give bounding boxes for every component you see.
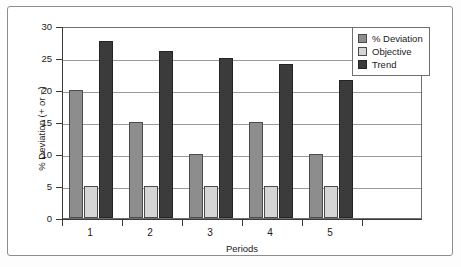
bar	[144, 186, 158, 218]
x-axis-tick	[242, 220, 243, 226]
y-axis-tick	[56, 187, 62, 188]
y-axis-tick	[56, 27, 62, 28]
legend-item: Objective	[358, 45, 423, 58]
x-axis-tick	[302, 220, 303, 226]
x-axis-tick	[182, 220, 183, 226]
x-axis-tick-label: 3	[190, 228, 230, 238]
y-axis-tick-label: 25	[30, 54, 52, 64]
bar	[249, 122, 263, 218]
bar	[219, 58, 233, 218]
bar	[279, 64, 293, 218]
legend-item: % Deviation	[358, 32, 423, 45]
legend-label: % Deviation	[372, 34, 423, 44]
legend-color-swatch	[358, 34, 367, 43]
y-axis-tick-label: 5	[30, 182, 52, 192]
y-axis-tick-label: 30	[30, 22, 52, 32]
bar	[264, 186, 278, 218]
x-axis-tick-label: 5	[310, 228, 350, 238]
x-axis-tick-label: 4	[250, 228, 290, 238]
y-axis-tick-labels: 051015202530	[26, 0, 52, 267]
chart-figure: % Deviation (+ or −) 051015202530 Period…	[0, 0, 461, 267]
legend-label: Trend	[372, 60, 396, 70]
bar	[159, 51, 173, 218]
y-axis-tick	[56, 219, 62, 220]
y-axis-line	[62, 27, 63, 220]
x-axis-tick	[122, 220, 123, 226]
y-axis-tick-label: 0	[30, 214, 52, 224]
x-axis-tick	[362, 220, 363, 226]
bar	[99, 41, 113, 218]
y-axis-tick	[56, 59, 62, 60]
legend-color-swatch	[358, 47, 367, 56]
x-axis-tick-label: 1	[70, 228, 110, 238]
bar	[129, 122, 143, 218]
y-axis-tick	[56, 155, 62, 156]
y-axis-tick-label: 20	[30, 86, 52, 96]
bar	[204, 186, 218, 218]
bar	[84, 186, 98, 218]
bar	[69, 90, 83, 218]
bar	[309, 154, 323, 218]
y-axis-tick	[56, 91, 62, 92]
y-axis-tick-label: 10	[30, 150, 52, 160]
legend-label: Objective	[372, 47, 412, 57]
x-axis-title: Periods	[62, 243, 422, 254]
x-axis-tick	[62, 220, 63, 226]
bar	[339, 80, 353, 218]
legend-color-swatch	[358, 60, 367, 69]
chart-legend: % DeviationObjectiveTrend	[352, 27, 430, 76]
x-axis-tick-label: 2	[130, 228, 170, 238]
legend-item: Trend	[358, 58, 423, 71]
y-axis-tick	[56, 123, 62, 124]
bar	[189, 154, 203, 218]
y-axis-tick-label: 15	[30, 118, 52, 128]
bar	[324, 186, 338, 218]
